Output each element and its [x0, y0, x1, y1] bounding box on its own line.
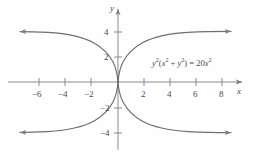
x-tick-label--2: −2 [84, 90, 94, 99]
plot-canvas [0, 0, 254, 158]
y-tick-label--4: −4 [100, 129, 110, 138]
x-tick-label-4: 4 [167, 90, 172, 99]
eq-coefficient: 20 [196, 58, 205, 68]
y-tick-label--2: −2 [100, 104, 110, 113]
equation-annotation: y2(x2 + y2) = 20x2 [152, 55, 211, 68]
x-tick-label--6: −6 [32, 90, 42, 99]
x-tick-label-2: 2 [141, 90, 146, 99]
curve-lower-right [118, 82, 231, 133]
eq-rhs-exp: 2 [208, 57, 211, 63]
graph-figure: −6 −4 −2 2 4 6 8 4 2 −2 −4 y x y2(x2 + y… [0, 0, 254, 158]
x-axis-label: x [237, 87, 241, 96]
y-tick-label-4: 4 [104, 28, 109, 37]
y-axis-label: y [110, 4, 114, 13]
x-tick-label-8: 8 [219, 90, 224, 99]
y-tick-label-2: 2 [104, 53, 109, 62]
eq-equals: = [187, 58, 196, 68]
x-tick-label--4: −4 [58, 90, 68, 99]
x-tick-label-6: 6 [193, 90, 198, 99]
